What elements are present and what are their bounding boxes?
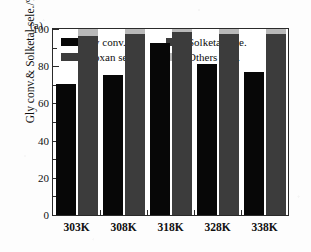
bar-segment-solketal-328K — [219, 34, 239, 215]
bar-segment-others-338K — [266, 29, 286, 34]
bar-segment-others-303K — [78, 29, 98, 36]
bar-selectivity-stack-308K — [125, 29, 145, 215]
bar-gly-conv-328K — [197, 64, 217, 215]
bar-selectivity-stack-318K — [172, 29, 192, 215]
bar-gly-conv-308K — [103, 75, 123, 215]
plot-area: 020406080100303K308K318K328K338K — [53, 29, 288, 215]
bar-selectivity-stack-303K — [78, 29, 98, 215]
y-tick-major — [53, 66, 59, 67]
bar-segment-others-308K — [125, 29, 145, 34]
x-tick-label-318K: 318K — [157, 221, 183, 233]
y-tick-label: 0 — [44, 209, 50, 221]
figure-panel-a: (a) Gly conv.& Solketal sele./% Gly conv… — [0, 0, 311, 252]
y-tick-label: 80 — [38, 60, 49, 72]
bar-segment-solketal-318K — [172, 32, 192, 215]
x-tick — [100, 210, 101, 215]
x-tick — [241, 210, 242, 215]
bar-selectivity-stack-338K — [266, 29, 286, 215]
x-tick — [147, 210, 148, 215]
x-tick — [194, 210, 195, 215]
y-tick-label: 60 — [38, 97, 49, 109]
y-tick-label: 20 — [38, 172, 49, 184]
bar-selectivity-stack-328K — [219, 29, 239, 215]
x-tick-label-303K: 303K — [63, 221, 89, 233]
y-tick-label: 40 — [38, 135, 49, 147]
x-tick-label-328K: 328K — [204, 221, 230, 233]
bar-segment-solketal-303K — [78, 36, 98, 215]
y-tick-label: 100 — [33, 23, 50, 35]
bar-segment-others-328K — [219, 29, 239, 34]
plot-frame: Gly conv. Solketal sele. Dioxan sele. Ot… — [52, 28, 289, 216]
bar-gly-conv-318K — [150, 43, 170, 215]
y-tick-minor — [53, 48, 57, 49]
y-tick-major — [53, 215, 59, 216]
bar-gly-conv-338K — [244, 72, 264, 215]
x-tick-label-308K: 308K — [110, 221, 136, 233]
bar-gly-conv-303K — [56, 84, 76, 215]
bar-segment-solketal-308K — [125, 34, 145, 215]
bar-segment-solketal-338K — [266, 34, 286, 215]
x-tick-label-338K: 338K — [251, 221, 277, 233]
bar-segment-others-318K — [172, 29, 192, 32]
y-axis-title: Gly conv.& Solketal sele./% — [24, 0, 36, 144]
y-tick-major — [53, 29, 59, 30]
